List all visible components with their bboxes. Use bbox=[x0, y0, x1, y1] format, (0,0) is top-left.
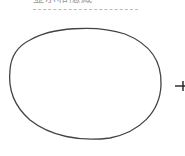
oval-shape bbox=[10, 28, 161, 139]
diagram-canvas bbox=[0, 0, 185, 156]
right-arrow-icon bbox=[175, 81, 185, 91]
